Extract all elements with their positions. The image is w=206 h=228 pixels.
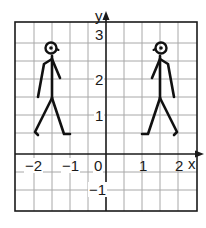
x-tick-label: −2 (24, 158, 43, 173)
eye-dot (159, 46, 163, 50)
x-tick-label: 0 (93, 158, 103, 173)
back-arm (160, 59, 174, 97)
coordinate-grid-diagram: y x −2 −1 0 1 2 3 2 1 −1 (0, 0, 206, 228)
nose (154, 49, 156, 50)
back-leg (35, 98, 52, 135)
y-axis-arrow-icon (103, 11, 110, 20)
x-axis-label: x (187, 156, 197, 171)
y-tick-label: 3 (94, 27, 104, 42)
x-tick-label: −1 (61, 158, 80, 173)
eye-dot (49, 46, 53, 50)
nose (57, 49, 59, 50)
back-leg (160, 98, 177, 135)
front-leg (142, 98, 160, 134)
front-leg (52, 98, 70, 134)
y-tick-label: 2 (94, 72, 104, 87)
back-arm (38, 59, 52, 97)
y-tick-label: 1 (94, 108, 104, 123)
x-tick-label: 1 (138, 158, 148, 173)
y-tick-label: −1 (88, 182, 107, 197)
y-axis-label: y (94, 8, 104, 23)
x-tick-label: 2 (174, 158, 184, 173)
